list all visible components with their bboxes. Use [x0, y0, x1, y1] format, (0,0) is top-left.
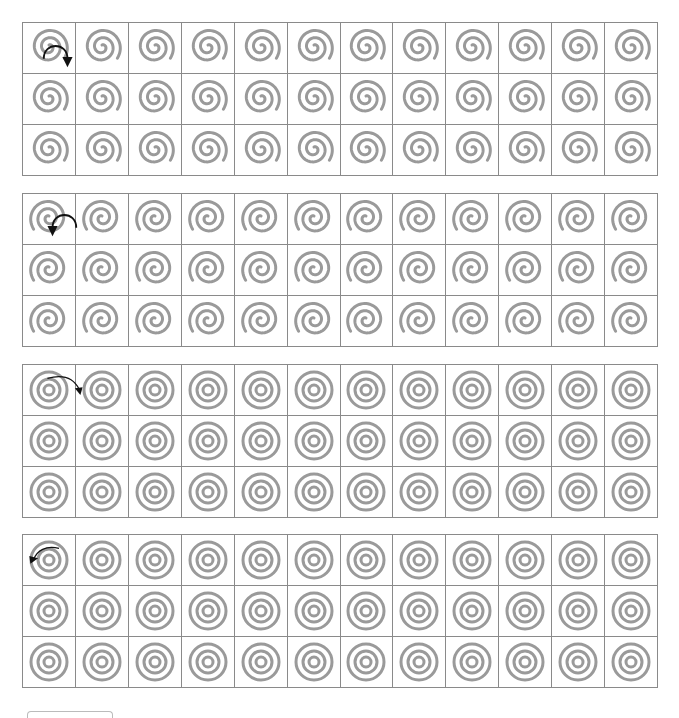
trace-cell	[182, 637, 235, 688]
trace-cell	[182, 194, 235, 245]
concentric-circles-icon	[186, 640, 230, 684]
spiral-icon	[556, 248, 600, 292]
concentric-circles-icon	[186, 470, 230, 514]
concentric-circles-icon	[556, 640, 600, 684]
trace-cell	[23, 194, 76, 245]
concentric-circles-icon	[292, 589, 336, 633]
trace-cell	[235, 586, 288, 637]
block-circles-clockwise	[22, 364, 658, 518]
trace-cell	[341, 194, 394, 245]
concentric-circles-icon	[609, 589, 653, 633]
concentric-circles-icon	[133, 419, 177, 463]
trace-cell	[129, 296, 182, 347]
spiral-icon	[80, 26, 124, 70]
trace-cell	[499, 296, 552, 347]
trace-cell	[499, 637, 552, 688]
spiral-icon	[133, 128, 177, 172]
spiral-icon	[239, 128, 283, 172]
trace-cell	[288, 535, 341, 586]
spiral-icon	[609, 299, 653, 343]
spiral-icon	[450, 128, 494, 172]
concentric-circles-icon	[239, 368, 283, 412]
spiral-icon	[239, 197, 283, 241]
concentric-circles-icon	[292, 640, 336, 684]
concentric-circles-icon	[27, 419, 71, 463]
concentric-circles-icon	[80, 640, 124, 684]
spiral-icon	[292, 128, 336, 172]
spiral-icon	[239, 77, 283, 121]
trace-cell	[23, 535, 76, 586]
spiral-icon	[239, 248, 283, 292]
concentric-circles-icon	[133, 470, 177, 514]
spiral-icon	[27, 248, 71, 292]
concentric-circles-icon	[556, 419, 600, 463]
concentric-circles-icon	[450, 640, 494, 684]
concentric-circles-icon	[344, 368, 388, 412]
concentric-circles-icon	[609, 419, 653, 463]
trace-cell	[393, 535, 446, 586]
spiral-icon	[80, 299, 124, 343]
trace-cell	[341, 23, 394, 74]
trace-cell	[341, 637, 394, 688]
trace-cell	[499, 416, 552, 467]
spiral-icon	[450, 26, 494, 70]
trace-cell	[552, 637, 605, 688]
spiral-icon	[450, 77, 494, 121]
trace-cell	[393, 365, 446, 416]
trace-cell	[129, 194, 182, 245]
trace-cell	[129, 125, 182, 176]
trace-cell	[23, 586, 76, 637]
spiral-icon	[503, 26, 547, 70]
spiral-icon	[556, 197, 600, 241]
spiral-icon	[186, 77, 230, 121]
spiral-icon	[186, 26, 230, 70]
trace-cell	[552, 245, 605, 296]
spiral-icon	[609, 128, 653, 172]
trace-cell	[446, 296, 499, 347]
spiral-icon	[27, 26, 71, 70]
concentric-circles-icon	[609, 640, 653, 684]
trace-cell	[76, 194, 129, 245]
trace-cell	[341, 467, 394, 518]
trace-cell	[605, 74, 658, 125]
concentric-circles-icon	[609, 368, 653, 412]
trace-cell	[499, 194, 552, 245]
trace-cell	[288, 245, 341, 296]
concentric-circles-icon	[239, 538, 283, 582]
spiral-icon	[186, 299, 230, 343]
trace-cell	[393, 23, 446, 74]
concentric-circles-icon	[239, 419, 283, 463]
trace-cell	[288, 637, 341, 688]
trace-cell	[23, 416, 76, 467]
concentric-circles-icon	[503, 470, 547, 514]
trace-cell	[552, 23, 605, 74]
trace-cell	[605, 125, 658, 176]
trace-cell	[235, 125, 288, 176]
spiral-icon	[344, 299, 388, 343]
concentric-circles-icon	[344, 589, 388, 633]
trace-cell	[76, 23, 129, 74]
trace-cell	[288, 296, 341, 347]
spiral-icon	[450, 197, 494, 241]
concentric-circles-icon	[80, 368, 124, 412]
concentric-circles-icon	[27, 538, 71, 582]
trace-cell	[341, 74, 394, 125]
spiral-icon	[292, 248, 336, 292]
trace-cell	[235, 365, 288, 416]
concentric-circles-icon	[344, 470, 388, 514]
trace-cell	[393, 74, 446, 125]
trace-cell	[182, 296, 235, 347]
concentric-circles-icon	[239, 470, 283, 514]
trace-cell	[552, 125, 605, 176]
concentric-circles-icon	[397, 538, 441, 582]
spiral-icon	[133, 26, 177, 70]
trace-cell	[552, 74, 605, 125]
spiral-icon	[133, 77, 177, 121]
concentric-circles-icon	[27, 589, 71, 633]
concentric-circles-icon	[186, 538, 230, 582]
trace-cell	[393, 467, 446, 518]
concentric-circles-icon	[450, 419, 494, 463]
trace-cell	[288, 23, 341, 74]
spiral-icon	[292, 197, 336, 241]
trace-cell	[182, 535, 235, 586]
